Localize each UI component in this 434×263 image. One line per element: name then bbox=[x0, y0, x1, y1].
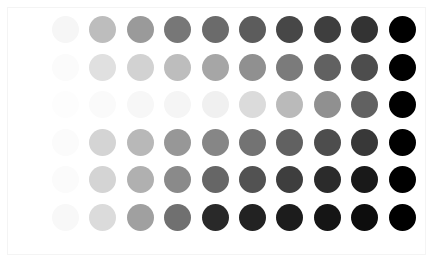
swatch-row bbox=[0, 204, 434, 241]
swatch-dot bbox=[89, 204, 116, 231]
swatch-dot bbox=[52, 166, 79, 193]
swatch-dot bbox=[52, 204, 79, 231]
swatch-dot bbox=[89, 166, 116, 193]
swatch-dot bbox=[202, 54, 229, 81]
swatch-dot bbox=[89, 16, 116, 43]
swatch-dot bbox=[389, 204, 416, 231]
swatch-dot bbox=[351, 204, 378, 231]
swatch-dot bbox=[89, 129, 116, 156]
swatch-dot bbox=[351, 54, 378, 81]
swatch-dot bbox=[164, 166, 191, 193]
swatch-row bbox=[0, 129, 434, 166]
swatch-dot bbox=[127, 129, 154, 156]
swatch-dot bbox=[276, 204, 303, 231]
swatch-dot bbox=[389, 16, 416, 43]
swatch-dot bbox=[276, 91, 303, 118]
swatch-dot bbox=[164, 204, 191, 231]
swatch-dot bbox=[202, 166, 229, 193]
swatch-dot bbox=[239, 129, 266, 156]
swatch-row bbox=[0, 166, 434, 203]
swatch-dot bbox=[202, 204, 229, 231]
swatch-dot bbox=[314, 16, 341, 43]
swatch-dot bbox=[164, 91, 191, 118]
swatch-dot bbox=[164, 16, 191, 43]
swatch-dot bbox=[127, 91, 154, 118]
figure-canvas bbox=[0, 0, 434, 263]
swatch-dot bbox=[127, 54, 154, 81]
swatch-dot bbox=[239, 91, 266, 118]
swatch-dot bbox=[314, 166, 341, 193]
swatch-dot bbox=[127, 16, 154, 43]
swatch-dot bbox=[239, 204, 266, 231]
swatch-row bbox=[0, 16, 434, 53]
swatch-dot bbox=[164, 54, 191, 81]
swatch-dot bbox=[276, 54, 303, 81]
swatch-dot bbox=[276, 166, 303, 193]
swatch-dot bbox=[239, 166, 266, 193]
swatch-dot bbox=[52, 129, 79, 156]
swatch-dot bbox=[276, 16, 303, 43]
swatch-dot bbox=[127, 166, 154, 193]
swatch-dot bbox=[314, 129, 341, 156]
swatch-dot bbox=[389, 129, 416, 156]
swatch-dot bbox=[202, 129, 229, 156]
swatch-dot bbox=[202, 91, 229, 118]
swatch-dot bbox=[314, 204, 341, 231]
swatch-dot bbox=[276, 129, 303, 156]
swatch-dot bbox=[164, 129, 191, 156]
swatch-dot bbox=[351, 91, 378, 118]
swatch-dot bbox=[351, 166, 378, 193]
swatch-dot bbox=[52, 16, 79, 43]
swatch-dot bbox=[351, 129, 378, 156]
swatch-row bbox=[0, 54, 434, 91]
swatch-dot bbox=[127, 204, 154, 231]
swatch-dot bbox=[89, 54, 116, 81]
swatch-dot bbox=[351, 16, 378, 43]
swatch-row bbox=[0, 91, 434, 128]
swatch-dot bbox=[52, 54, 79, 81]
swatch-dot bbox=[89, 91, 116, 118]
swatch-dot bbox=[239, 54, 266, 81]
swatch-dot bbox=[389, 91, 416, 118]
circle-matrix bbox=[0, 0, 434, 263]
swatch-dot bbox=[314, 54, 341, 81]
swatch-dot bbox=[239, 16, 266, 43]
swatch-dot bbox=[314, 91, 341, 118]
swatch-dot bbox=[202, 16, 229, 43]
swatch-dot bbox=[52, 91, 79, 118]
swatch-dot bbox=[389, 166, 416, 193]
swatch-dot bbox=[389, 54, 416, 81]
